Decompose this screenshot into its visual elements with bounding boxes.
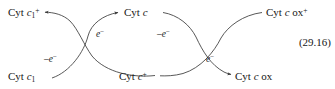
electron-label-right-lower: e− xyxy=(206,55,214,65)
electron-label-left-lower: –e− xyxy=(44,55,57,65)
electron-superscript: − xyxy=(53,53,57,61)
species-prefix: Cyt xyxy=(124,6,143,18)
equation-number: (29.16) xyxy=(299,37,331,48)
species-prefix: Cyt xyxy=(8,70,27,82)
species-prefix: Cyt xyxy=(235,70,254,82)
species-prefix: Cyt xyxy=(119,70,138,82)
species-label-cyt-c1-plus: Cyt c1+ xyxy=(8,7,40,18)
arrow-cytcox-plus-to-cytc-plus xyxy=(160,13,262,76)
species-prefix: Cyt xyxy=(266,6,285,18)
electron-label-left-upper: e− xyxy=(96,30,104,40)
arrow-cytc-plus-to-cytc1-plus xyxy=(45,12,155,76)
electron-superscript: − xyxy=(166,28,170,36)
species-label-cyt-c-ox-plus: Cyt c ox+ xyxy=(266,7,308,18)
species-label-cyt-c-ox: Cyt c ox xyxy=(235,71,272,82)
species-superscript: + xyxy=(35,6,39,15)
species-label-cyt-c1: Cyt c1 xyxy=(8,71,35,82)
electron-text: –e xyxy=(157,29,166,39)
species-superscript: + xyxy=(143,70,147,79)
electron-superscript: − xyxy=(210,53,214,61)
electron-superscript: − xyxy=(100,28,104,36)
species-label-cyt-c-plus: Cyt c+ xyxy=(119,71,147,82)
species-suffix: ox xyxy=(259,70,273,82)
reaction-scheme-figure: Cyt c1+ Cyt c1 Cyt c Cyt c+ Cyt c ox+ Cy… xyxy=(0,0,335,89)
species-suffix: ox xyxy=(290,6,304,18)
species-subscript: 1 xyxy=(32,75,36,84)
species-label-cyt-c: Cyt c xyxy=(124,7,148,18)
species-italic: c xyxy=(143,6,148,18)
species-prefix: Cyt xyxy=(8,6,27,18)
species-superscript: + xyxy=(303,6,307,15)
electron-text: –e xyxy=(44,54,53,64)
arrow-cytc-to-cytcox xyxy=(163,13,231,75)
electron-label-right-upper: –e− xyxy=(157,30,170,40)
